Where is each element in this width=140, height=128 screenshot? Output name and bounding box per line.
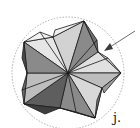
polyhedron-diagram — [0, 0, 140, 128]
figure-label: j. — [113, 110, 121, 125]
pointer-arrow — [104, 31, 135, 51]
polyhedron — [22, 21, 121, 118]
